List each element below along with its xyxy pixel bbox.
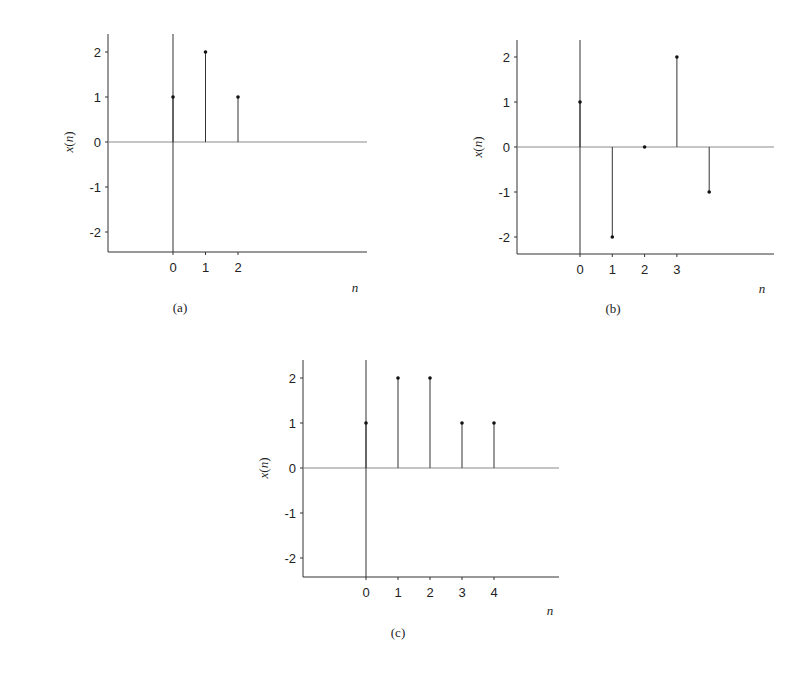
stem-marker bbox=[460, 421, 464, 425]
x-tick-label: 1 bbox=[394, 585, 401, 600]
x-tick-label: 1 bbox=[609, 262, 616, 277]
y-tick-label: -2 bbox=[284, 551, 296, 566]
y-tick-label: -1 bbox=[498, 185, 510, 200]
x-tick-label: 0 bbox=[576, 262, 583, 277]
y-tick-label: 0 bbox=[289, 461, 296, 476]
stem-marker bbox=[611, 235, 615, 239]
stem-marker bbox=[364, 421, 368, 425]
stem-marker bbox=[428, 376, 432, 380]
stem-marker bbox=[707, 190, 711, 194]
stem-marker bbox=[236, 95, 240, 99]
y-axis-label: x(n) bbox=[61, 132, 76, 154]
x-tick-label: 0 bbox=[169, 260, 176, 275]
y-tick-label: 1 bbox=[503, 95, 510, 110]
stem-marker bbox=[204, 50, 208, 54]
stem-plot-figure: 210-1-2012x(n)n(a)210-1-20123x(n)n(b)210… bbox=[0, 0, 810, 678]
x-tick-label: 3 bbox=[458, 585, 465, 600]
y-tick-label: 1 bbox=[289, 416, 296, 431]
x-axis-label: n bbox=[759, 281, 766, 296]
stem-marker bbox=[396, 376, 400, 380]
y-tick-label: -1 bbox=[89, 180, 101, 195]
y-tick-label: 0 bbox=[94, 135, 101, 150]
chart-caption: (a) bbox=[173, 300, 187, 315]
y-tick-label: 2 bbox=[94, 45, 101, 60]
x-tick-label: 1 bbox=[202, 260, 209, 275]
y-tick-label: 0 bbox=[503, 140, 510, 155]
y-tick-label: 2 bbox=[289, 371, 296, 386]
chart-caption: (b) bbox=[605, 301, 620, 316]
y-axis-label: x(n) bbox=[470, 137, 485, 159]
x-axis-label: n bbox=[547, 603, 554, 618]
y-tick-label: -2 bbox=[89, 225, 101, 240]
stem-marker bbox=[578, 100, 582, 104]
chart-caption: (c) bbox=[391, 625, 405, 640]
x-tick-label: 2 bbox=[234, 260, 241, 275]
x-axis-label: n bbox=[352, 280, 359, 295]
stem-chart-c: 210-1-201234x(n)n(c) bbox=[256, 360, 559, 640]
stem-marker bbox=[675, 55, 679, 59]
y-tick-label: 2 bbox=[503, 50, 510, 65]
stem-marker bbox=[643, 145, 647, 149]
x-tick-label: 4 bbox=[490, 585, 497, 600]
x-tick-label: 0 bbox=[362, 585, 369, 600]
y-tick-label: 1 bbox=[94, 90, 101, 105]
stem-marker bbox=[492, 421, 496, 425]
x-tick-label: 2 bbox=[641, 262, 648, 277]
stem-chart-b: 210-1-20123x(n)n(b) bbox=[470, 40, 774, 316]
y-axis-label: x(n) bbox=[256, 458, 271, 480]
y-tick-label: -1 bbox=[284, 506, 296, 521]
y-tick-label: -2 bbox=[498, 230, 510, 245]
x-tick-label: 2 bbox=[426, 585, 433, 600]
stem-marker bbox=[171, 95, 175, 99]
stem-chart-a: 210-1-2012x(n)n(a) bbox=[61, 34, 367, 315]
x-tick-label: 3 bbox=[673, 262, 680, 277]
